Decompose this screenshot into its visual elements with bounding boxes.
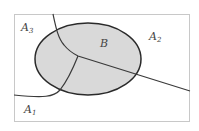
event-label-b: B: [99, 37, 108, 50]
partition-diagram: A3 B A2 A1: [0, 0, 199, 131]
